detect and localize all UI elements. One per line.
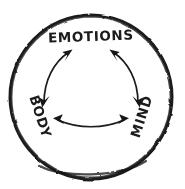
sketch-diagram: EMOTIONS BODY MIND [0, 0, 185, 189]
diagram-canvas: EMOTIONS BODY MIND [0, 0, 185, 189]
label-body-text: BODY [26, 93, 55, 140]
connection-body-mind [53, 114, 129, 127]
node-label-mind: MIND [127, 93, 156, 139]
node-label-emotions: EMOTIONS [48, 27, 134, 46]
node-label-body: BODY [26, 93, 55, 140]
label-mind-text: MIND [127, 93, 156, 139]
label-emotions-text: EMOTIONS [48, 27, 134, 46]
